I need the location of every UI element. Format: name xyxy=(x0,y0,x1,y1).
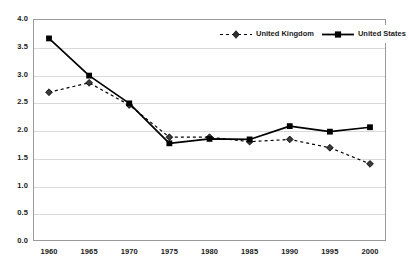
gridline xyxy=(34,187,385,188)
gridline xyxy=(34,103,385,104)
y-axis-tick-label: 1.0 xyxy=(2,182,28,190)
x-axis-tick-label: 1970 xyxy=(107,248,151,256)
legend-entry-united-states: United States xyxy=(321,30,406,39)
x-axis-tick-label: 1985 xyxy=(228,248,272,256)
y-axis-tick-label: 4.0 xyxy=(2,15,28,23)
x-axis-tick-label: 1995 xyxy=(308,248,352,256)
gridline xyxy=(34,214,385,215)
chart-legend: United Kingdom United States xyxy=(216,25,409,43)
gridline xyxy=(34,159,385,160)
y-axis-tick-label: 0.0 xyxy=(2,237,28,245)
x-axis-tick-label: 1975 xyxy=(147,248,191,256)
x-axis-tick-label: 1965 xyxy=(67,248,111,256)
legend-label-united-kingdom: United Kingdom xyxy=(256,30,314,38)
y-axis-tick-label: 3.0 xyxy=(2,71,28,79)
plot-area xyxy=(33,19,386,241)
gridline xyxy=(34,48,385,49)
y-axis-tick-label: 3.5 xyxy=(2,43,28,51)
x-axis-tick-label: 2000 xyxy=(348,248,392,256)
y-axis-tick-label: 1.5 xyxy=(2,154,28,162)
legend-entry-united-kingdom: United Kingdom xyxy=(219,30,314,39)
y-axis-tick-label: 2.0 xyxy=(2,126,28,134)
legend-label-united-states: United States xyxy=(358,30,406,38)
gridline xyxy=(34,131,385,132)
y-axis-tick-label: 2.5 xyxy=(2,98,28,106)
y-axis-tick-label: 0.5 xyxy=(2,209,28,217)
x-axis-tick-label: 1960 xyxy=(27,248,71,256)
solid-square-line-icon xyxy=(321,30,355,39)
dashed-diamond-line-icon xyxy=(219,30,253,39)
gridline xyxy=(34,76,385,77)
x-axis-tick-label: 1980 xyxy=(188,248,232,256)
x-axis-tick-label: 1990 xyxy=(268,248,312,256)
